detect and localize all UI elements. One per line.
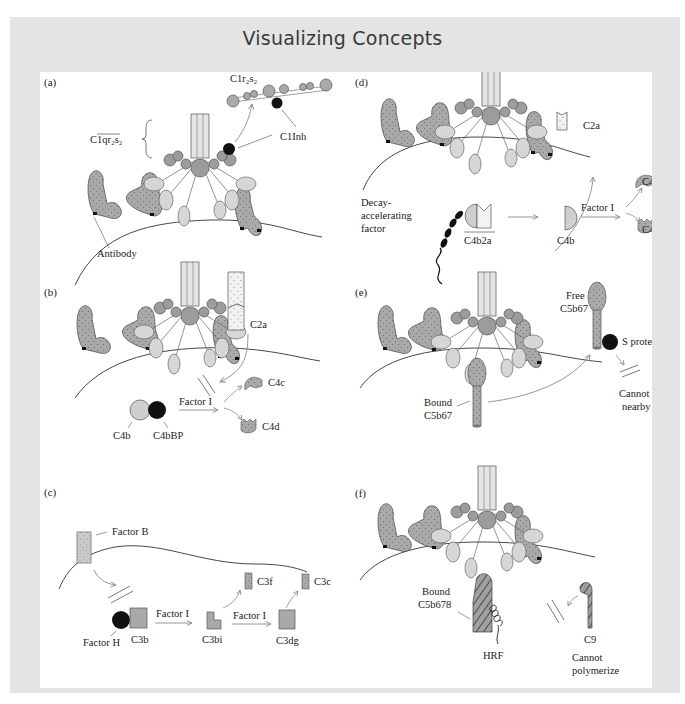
bound-label-1: Bound — [424, 397, 453, 408]
c3dg-icon — [279, 610, 295, 629]
c1r2s2-label: C1r₂s₂ — [230, 73, 257, 84]
factor-h-label: Factor H — [83, 637, 120, 648]
c4d-label: C4d — [642, 224, 652, 235]
c1qr2s2-label: C1qr₂s₂ — [90, 134, 123, 145]
c2a-icon — [557, 112, 567, 130]
c4bbp-icon — [148, 401, 166, 419]
c3f-icon — [245, 573, 252, 589]
panel-f: (f) Bound C5b678 HRF C9 Cannot polymeriz… — [355, 466, 620, 676]
cannot-label-2: polymerize — [572, 665, 620, 676]
cannot-label-1: Cannot — [572, 652, 602, 663]
antibody-icon — [88, 171, 121, 219]
c3bi-label: C3bi — [202, 634, 223, 645]
c2a-label: C2a — [250, 319, 267, 330]
c4bbp-label: C4bBP — [153, 430, 184, 441]
figure-panel: (a) C1r₂s₂ C1Inh C1qr₂s₂ Antibody (d) — [40, 72, 652, 688]
antibody-icon — [378, 504, 411, 552]
c4c-icon — [245, 377, 262, 390]
c4b-icon — [465, 204, 477, 228]
c4d-label: C4d — [262, 421, 280, 432]
panel-f-label: (f) — [355, 487, 366, 500]
c4c-label: C4c — [268, 377, 285, 388]
cannot-attack-label-2: nearby cells — [622, 401, 652, 412]
factor-i-label-2: Factor I — [233, 610, 266, 621]
panel-e: (e) Free C5b67 S protein Bound C5b67 Can… — [355, 272, 652, 428]
free-label-2: C5b67 — [560, 303, 588, 314]
c3bi-icon — [207, 612, 221, 629]
c3dg-label: C3dg — [276, 635, 300, 646]
c9-icon — [580, 583, 592, 628]
bound-c5b67-icon — [468, 358, 486, 428]
c2a-icon — [228, 272, 244, 308]
bound-label-2: C5b67 — [424, 410, 452, 421]
free-label-1: Free — [566, 290, 585, 301]
c4b-icon — [130, 400, 150, 420]
daf-label-1: Decay- — [361, 197, 392, 208]
antibody-icon — [378, 306, 411, 354]
c3b-label: C3b — [131, 634, 149, 645]
s-protein-label: S protein — [622, 336, 652, 347]
c4b-label: C4b — [557, 235, 575, 246]
daf-icon — [436, 209, 464, 284]
panel-e-label: (e) — [355, 286, 368, 299]
bound-label-1: Bound — [422, 586, 451, 597]
c2a-icon — [477, 204, 491, 228]
antibody-icon — [77, 306, 110, 354]
antibody-icon — [416, 103, 452, 146]
s-protein-icon — [602, 334, 618, 350]
factor-b-label: Factor B — [112, 526, 148, 537]
c3c-label: C3c — [314, 576, 331, 587]
c2a-label: C2a — [583, 120, 600, 131]
daf-label-3: factor — [361, 223, 386, 234]
figure-title: Visualizing Concepts — [0, 27, 685, 49]
panel-b-label: (b) — [44, 286, 57, 299]
c4b-label: C4b — [113, 430, 131, 441]
c1inh-label: C1Inh — [280, 131, 307, 142]
c4c-label: C4c — [642, 176, 652, 187]
factor-i-label: Factor I — [179, 396, 212, 407]
antibody-icon — [235, 188, 262, 236]
c3f-label: C3f — [257, 576, 273, 587]
panel-d-label: (d) — [355, 76, 368, 89]
daf-label-2: accelerating — [361, 210, 412, 221]
panel-b: (b) C2a C4b C4bBP Factor I C4c C4d — [44, 262, 320, 441]
c3c-icon — [302, 574, 309, 589]
c3b-icon — [130, 608, 147, 628]
hrf-label: HRF — [483, 650, 504, 661]
bound-label-2: C5b678 — [418, 599, 451, 610]
factor-h-icon — [112, 611, 130, 629]
c1inh-icon — [272, 98, 283, 109]
factor-i-label-1: Factor I — [156, 608, 189, 619]
panel-c: (c) Factor B Factor H C3b Factor I C3bi … — [44, 486, 331, 648]
panel-c-label: (c) — [44, 486, 57, 499]
panel-d: (d) C2a C4b2a Decay- accelerating factor… — [355, 72, 652, 284]
panel-a: (a) C1r₂s₂ C1Inh C1qr₂s₂ Antibody — [44, 73, 332, 285]
bracket-icon — [142, 120, 152, 158]
c1inh-icon — [223, 143, 235, 155]
c9-label: C9 — [584, 634, 596, 645]
factor-i-label: Factor I — [581, 202, 614, 213]
bound-c5b678-icon — [473, 574, 492, 632]
panel-a-label: (a) — [44, 76, 57, 89]
cannot-attack-label-1: Cannot attack — [619, 388, 652, 399]
antibody-icon — [381, 99, 414, 147]
c4d-icon — [241, 419, 256, 433]
c4b2a-label: C4b2a — [464, 235, 492, 246]
antibody-label: Antibody — [97, 248, 137, 259]
